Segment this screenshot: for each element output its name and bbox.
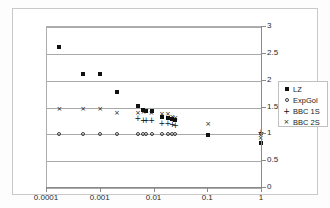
plot-area: +++++++++×××××××××××××× — [46, 26, 261, 187]
x-tick-label-0.1: 0.1 — [202, 194, 213, 202]
x-tick-0.01 — [154, 187, 155, 192]
marker-cross: × — [80, 106, 87, 113]
gridline-y-0.5 — [47, 161, 261, 162]
x-tick-label-0.01: 0.01 — [146, 194, 162, 202]
legend-item-bbc-1s: +BBC 1S — [282, 106, 325, 116]
x-tick-0.1 — [207, 187, 208, 192]
chart-figure: +++++++++×××××××××××××× 00.511.522.53 0.… — [0, 0, 330, 208]
marker-filled-square — [136, 104, 140, 108]
marker-open-circle — [160, 132, 164, 136]
marker-cross: × — [172, 115, 179, 122]
y-tick-2 — [261, 80, 266, 81]
gridline-y-3 — [47, 27, 261, 28]
marker-open-circle — [57, 132, 61, 136]
marker-filled-square — [206, 133, 210, 137]
legend-symbol-open-circle-icon — [282, 96, 291, 105]
y-tick-label-2: 2 — [267, 76, 271, 84]
marker-filled-square — [285, 87, 289, 91]
y-tick-label-3: 3 — [267, 22, 271, 30]
marker-cross: × — [56, 105, 63, 112]
legend-item-bbc-2s: ×BBC 2S — [282, 117, 325, 127]
marker-cross: × — [97, 106, 104, 113]
y-tick-label-0: 0 — [267, 183, 271, 191]
gridline-y-2 — [47, 81, 261, 82]
marker-open-circle — [98, 132, 102, 136]
marker-open-circle — [285, 98, 289, 102]
legend-label: LZ — [293, 85, 302, 94]
marker-plus: + — [172, 122, 179, 129]
y-tick-label-2.5: 2.5 — [267, 49, 278, 57]
x-tick-label-0.001: 0.001 — [90, 194, 110, 202]
y-tick-label-1.5: 1.5 — [267, 103, 278, 111]
legend-item-lz: LZ — [282, 84, 325, 94]
marker-open-circle — [173, 132, 177, 136]
marker-plus: + — [282, 108, 291, 115]
y-tick-1.5 — [261, 107, 266, 108]
y-tick-0.5 — [261, 160, 266, 161]
marker-plus: + — [148, 117, 155, 124]
legend-label: ExpGol — [293, 96, 318, 105]
y-tick-2.5 — [261, 53, 266, 54]
legend-symbol-cross-icon: × — [282, 118, 291, 127]
marker-cross: × — [205, 120, 212, 127]
y-tick-label-0.5: 0.5 — [267, 156, 278, 164]
legend-symbol-filled-square-icon — [282, 85, 291, 94]
legend-label: BBC 1S — [293, 107, 320, 116]
marker-filled-square — [57, 45, 61, 49]
legend-symbol-plus-icon: + — [282, 107, 291, 116]
gridline-y-2.5 — [47, 54, 261, 55]
x-tick-1 — [261, 187, 262, 192]
x-tick-label-1: 1 — [259, 194, 263, 202]
marker-cross: × — [148, 109, 155, 116]
marker-cross: × — [113, 109, 120, 116]
y-tick-3 — [261, 26, 266, 27]
legend-item-expgol: ExpGol — [282, 95, 325, 105]
marker-filled-square — [115, 90, 119, 94]
y-tick-1 — [261, 133, 266, 134]
marker-open-circle — [136, 132, 140, 136]
marker-open-circle — [144, 132, 148, 136]
marker-open-circle — [115, 132, 119, 136]
marker-filled-square — [81, 72, 85, 76]
x-tick-0.0001 — [46, 187, 47, 192]
legend-label: BBC 2S — [293, 118, 320, 127]
marker-cross: × — [282, 119, 291, 126]
x-tick-label-0.0001: 0.0001 — [34, 194, 58, 202]
marker-open-circle — [150, 132, 154, 136]
chart-frame: +++++++++×××××××××××××× 00.511.522.53 0.… — [12, 8, 318, 195]
gridline-y-1 — [47, 134, 261, 135]
y-tick-label-1: 1 — [267, 129, 271, 137]
x-tick-0.001 — [100, 187, 101, 192]
marker-open-circle — [81, 132, 85, 136]
marker-open-circle — [166, 132, 170, 136]
marker-filled-square — [98, 72, 102, 76]
chart-legend: LZExpGol+BBC 1S×BBC 2S — [278, 81, 328, 127]
